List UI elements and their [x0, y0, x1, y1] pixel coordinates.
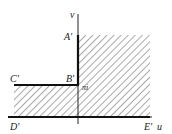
- point-b-label: B': [66, 73, 75, 84]
- u-axis-label: u: [157, 121, 162, 132]
- point-e-label: E': [143, 121, 153, 132]
- conformal-map-diagram: v A' B' C' πi D' E' u: [0, 0, 172, 134]
- point-a-label: A': [63, 31, 73, 42]
- point-c-label: C': [10, 73, 20, 84]
- point-d-label: D': [9, 121, 20, 132]
- v-axis-label: v: [70, 9, 75, 20]
- pi-i-label: πi: [82, 83, 88, 92]
- shaded-region: [14, 35, 150, 117]
